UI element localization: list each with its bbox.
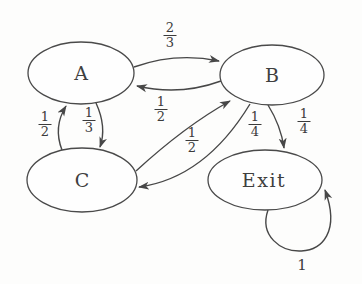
fraction-numerator: 1 (188, 125, 196, 140)
edge-B-to-A-probability: 1 2 (155, 94, 168, 124)
edge-C-to-B (136, 101, 230, 171)
edge-Exit-self-loop-probability: 1 (297, 256, 307, 274)
edge-A-to-B-probability: 2 3 (164, 20, 177, 50)
fraction-denominator: 2 (188, 140, 196, 155)
edge-C-to-A (58, 106, 66, 150)
edge-C-to-A-probability: 1 2 (39, 109, 52, 139)
fraction-denominator: 4 (251, 124, 259, 139)
fraction-numerator: 1 (41, 109, 49, 124)
node-B-label: B (265, 64, 279, 86)
edge-A-to-B (134, 58, 219, 67)
node-C-label: C (75, 169, 90, 191)
edge-A-to-C (96, 103, 103, 147)
state-diagram-canvas: A B C Exit 2 3 1 2 1 2 (0, 0, 362, 284)
node-A-label: A (73, 62, 88, 84)
edge-B-to-A (137, 81, 221, 90)
node-C: C (27, 148, 137, 212)
edge-B-to-Exit (268, 105, 284, 148)
fraction-denominator: 2 (41, 124, 49, 139)
node-B: B (220, 45, 324, 105)
edge-C-to-B-probability: 1 2 (186, 125, 199, 155)
fraction-numerator: 1 (157, 94, 165, 109)
fraction-denominator: 4 (300, 121, 308, 136)
edge-A-to-C-probability: 1 3 (83, 105, 96, 135)
fraction-denominator: 3 (166, 35, 174, 50)
fraction-denominator: 3 (85, 120, 93, 135)
fraction-denominator: 2 (157, 109, 165, 124)
edge-B-to-Exit-probability: 1 4 (298, 106, 311, 136)
markov-chain-diagram: A B C Exit 2 3 1 2 1 2 (0, 0, 362, 284)
fraction-numerator: 2 (166, 20, 174, 35)
fraction-numerator: 1 (85, 105, 93, 120)
node-Exit: Exit (208, 150, 322, 210)
node-A: A (28, 42, 134, 104)
edge-B-to-C-probability: 1 4 (249, 109, 262, 139)
fraction-numerator: 1 (251, 109, 259, 124)
fraction-numerator: 1 (300, 106, 308, 121)
node-Exit-label: Exit (242, 169, 286, 191)
